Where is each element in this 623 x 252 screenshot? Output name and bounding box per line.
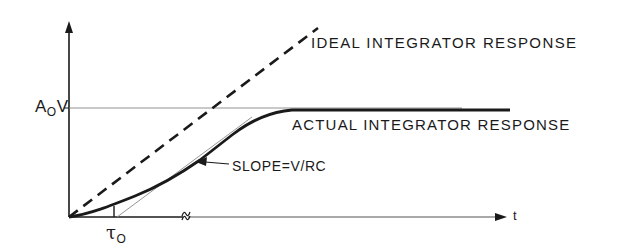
time-axis-label: t (513, 208, 517, 223)
time-constant-label: τO (106, 222, 126, 246)
tau-sub: O (116, 232, 126, 246)
y-axis (65, 21, 73, 217)
axis-break-icon (182, 212, 190, 220)
actual-response-label: ACTUAL INTEGRATOR RESPONSE (292, 116, 570, 133)
tau-main: τ (106, 222, 116, 243)
aov-tail: V (57, 97, 69, 116)
aov-sub: O (47, 105, 57, 119)
x-axis-arrow-icon (495, 213, 507, 221)
ideal-response-line (69, 28, 318, 217)
x-axis (69, 212, 507, 221)
saturation-level-label: AOV (35, 97, 69, 119)
ideal-response-label: IDEAL INTEGRATOR RESPONSE (311, 34, 577, 51)
aov-main: A (35, 97, 47, 116)
slope-label: SLOPE=V/RC (232, 158, 326, 174)
y-axis-arrow-icon (65, 21, 73, 33)
